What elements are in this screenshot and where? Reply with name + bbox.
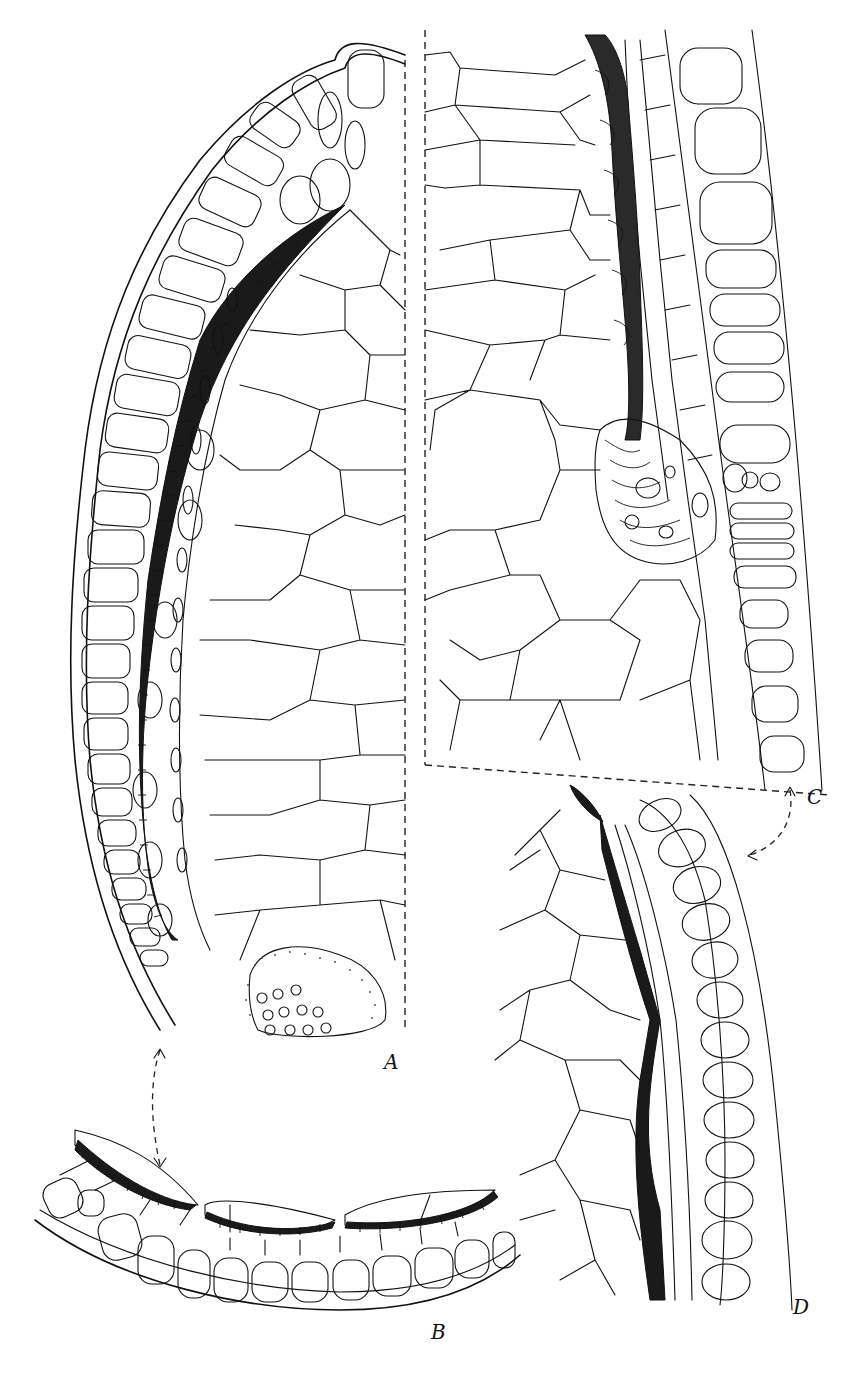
panel-label-b: B <box>431 1322 446 1342</box>
panel-label-a: A <box>384 1052 398 1072</box>
panel-d-drawing <box>0 0 862 1379</box>
panel-label-c: C <box>807 787 822 807</box>
panel-label-d: D <box>793 1297 809 1317</box>
botanical-figure: A B C D <box>0 0 862 1379</box>
